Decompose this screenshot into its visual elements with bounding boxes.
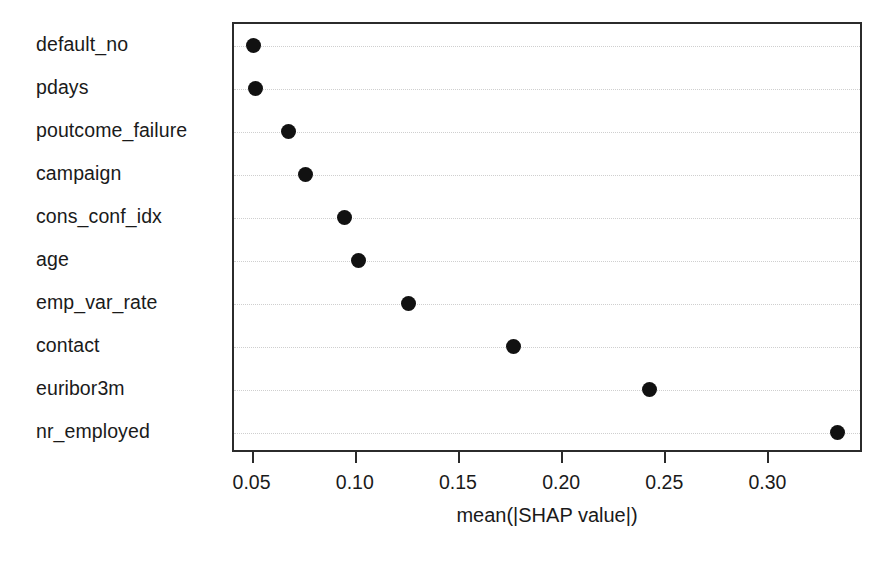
data-point <box>351 253 366 268</box>
x-axis-title: mean(|SHAP value|) <box>232 503 862 527</box>
data-point <box>248 81 263 96</box>
x-axis-tick <box>355 452 357 463</box>
data-point <box>337 210 352 225</box>
x-axis-tick <box>561 452 563 463</box>
gridline <box>234 132 860 133</box>
x-axis-tick-label: 0.05 <box>207 471 297 493</box>
gridline <box>234 175 860 176</box>
x-axis-tick <box>767 452 769 463</box>
gridline <box>234 433 860 434</box>
data-point <box>246 38 261 53</box>
plot-area-frame <box>232 22 862 452</box>
shap-feature-importance-chart: default_nopdayspoutcome_failurecampaignc… <box>0 0 894 568</box>
data-point <box>281 124 296 139</box>
y-axis-label-poutcome-failure: poutcome_failure <box>36 120 226 140</box>
gridline <box>234 218 860 219</box>
data-point <box>506 339 521 354</box>
y-axis-label-default-no: default_no <box>36 34 226 54</box>
y-axis-label-contact: contact <box>36 335 226 355</box>
x-axis-tick-label: 0.25 <box>619 471 709 493</box>
data-point <box>298 167 313 182</box>
y-axis-label-pdays: pdays <box>36 77 226 97</box>
data-point <box>401 296 416 311</box>
gridline <box>234 304 860 305</box>
gridline <box>234 89 860 90</box>
x-axis-tick-label: 0.20 <box>516 471 606 493</box>
x-axis-tick <box>252 452 254 463</box>
y-axis-label-campaign: campaign <box>36 163 226 183</box>
y-axis-category-labels: default_nopdayspoutcome_failurecampaignc… <box>36 22 226 452</box>
gridline <box>234 46 860 47</box>
y-axis-label-cons-conf-idx: cons_conf_idx <box>36 206 226 226</box>
gridline <box>234 347 860 348</box>
x-axis-tick <box>458 452 460 463</box>
y-axis-label-age: age <box>36 249 226 269</box>
x-axis-tick-label: 0.10 <box>310 471 400 493</box>
x-axis-tick <box>664 452 666 463</box>
gridline <box>234 390 860 391</box>
data-point <box>642 382 657 397</box>
y-axis-label-euribor3m: euribor3m <box>36 378 226 398</box>
data-point <box>830 425 845 440</box>
plot-area-inner <box>234 24 860 450</box>
x-axis-tick-label: 0.15 <box>413 471 503 493</box>
y-axis-label-nr-employed: nr_employed <box>36 421 226 441</box>
x-axis-tick-label: 0.30 <box>722 471 812 493</box>
y-axis-label-emp-var-rate: emp_var_rate <box>36 292 226 312</box>
gridline <box>234 261 860 262</box>
